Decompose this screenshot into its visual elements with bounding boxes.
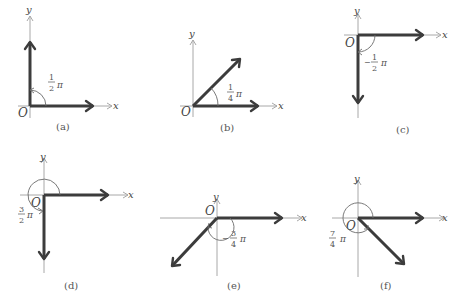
angle-pi: π — [56, 80, 64, 90]
angle-pi: π — [26, 210, 34, 220]
angle-denominator: 2 — [49, 84, 54, 93]
angle-numerator: 1 — [49, 73, 54, 82]
angle-arc — [211, 88, 218, 106]
angle-arc — [358, 35, 375, 52]
origin-label: O — [205, 204, 215, 218]
caption-b: (b) — [220, 122, 234, 133]
origin-label: O — [18, 106, 28, 120]
y-axis-label: y — [39, 151, 46, 162]
angle-numerator: 3 — [19, 205, 24, 214]
angle-numerator: 3 — [231, 229, 236, 238]
terminal-vector — [172, 218, 217, 266]
x-axis-label: x — [278, 100, 284, 111]
angle-denominator: 4 — [228, 94, 233, 103]
angle-denominator: 4 — [231, 240, 236, 249]
caption-d: (d) — [64, 280, 78, 291]
origin-label: O — [345, 36, 355, 50]
angle-arc — [30, 90, 46, 106]
angle-numerator: 7 — [330, 229, 335, 238]
x-axis-label: x — [128, 189, 134, 200]
angle-denominator: 2 — [19, 216, 24, 225]
origin-label: O — [31, 196, 41, 210]
panel-d: y x O 3 2 π (d) — [18, 151, 134, 291]
angle-denominator: 4 — [330, 240, 335, 249]
y-axis-label: y — [25, 4, 32, 15]
y-axis-label: y — [212, 191, 219, 202]
angle-pi: π — [239, 234, 247, 244]
angle-pi: π — [380, 58, 388, 68]
angle-numerator: 1 — [372, 53, 377, 62]
y-axis-label: y — [188, 28, 195, 39]
caption-c: (c) — [396, 124, 410, 135]
angle-sign: − — [364, 58, 371, 67]
x-axis-label: x — [442, 212, 448, 223]
angle-diagram-figure: y x O 1 2 π (a) y x O 1 4 π (b) — [0, 0, 459, 302]
panel-b: y x O 1 4 π (b) — [180, 28, 284, 133]
angle-pi: π — [235, 89, 243, 99]
panel-c: y x O − 1 2 π (c) — [344, 5, 448, 135]
y-axis-label: y — [353, 5, 360, 16]
panel-f: y x O 7 4 π (f) — [329, 173, 448, 291]
angle-numerator: 1 — [228, 83, 233, 92]
x-axis-label: x — [301, 212, 307, 223]
y-axis-label: y — [353, 173, 360, 184]
origin-label: O — [181, 105, 191, 119]
angle-sign: − — [222, 234, 229, 243]
caption-e: (e) — [227, 280, 241, 291]
angle-denominator: 2 — [372, 64, 377, 73]
panel-e: y x O − 3 4 π (e) — [160, 191, 307, 291]
angle-pi: π — [339, 234, 347, 244]
caption-a: (a) — [56, 121, 70, 132]
x-axis-label: x — [442, 29, 448, 40]
x-axis-label: x — [113, 100, 119, 111]
panel-a: y x O 1 2 π (a) — [18, 4, 119, 132]
caption-f: (f) — [380, 280, 392, 291]
terminal-vector — [358, 218, 404, 264]
